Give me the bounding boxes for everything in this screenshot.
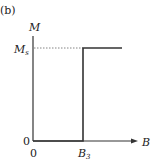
panel-label: (b)	[0, 5, 16, 16]
x-axis-arrow-icon	[131, 139, 138, 144]
ms-sub: s	[25, 49, 29, 57]
x-axis-label: B	[142, 137, 150, 148]
b3-sub: 3	[86, 153, 90, 161]
y-origin-label: 0	[23, 136, 30, 147]
b3-tick-label: B3	[78, 148, 91, 161]
ms-main: M	[14, 43, 25, 56]
step-curve	[33, 48, 122, 141]
b3-main: B	[78, 147, 86, 160]
x-origin-label: 0	[30, 148, 37, 159]
ms-tick-label: Ms	[14, 44, 29, 57]
y-axis-label: M	[29, 22, 40, 33]
